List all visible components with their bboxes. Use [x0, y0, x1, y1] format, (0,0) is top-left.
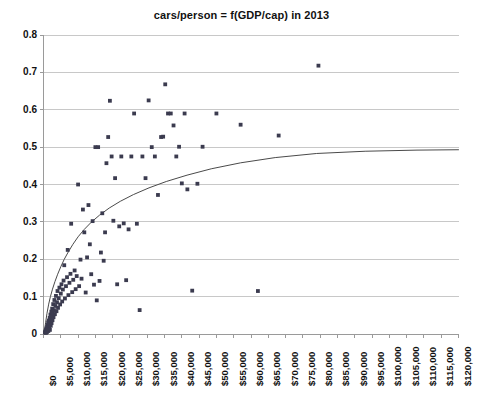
data-point	[110, 155, 114, 159]
data-point	[129, 155, 133, 159]
data-point	[174, 155, 178, 159]
data-point	[62, 263, 66, 267]
data-point	[81, 208, 85, 212]
data-point	[183, 112, 187, 116]
data-point	[77, 284, 81, 288]
data-point	[69, 222, 73, 226]
data-point	[117, 224, 121, 228]
data-point	[239, 123, 243, 127]
data-point	[147, 99, 151, 103]
data-point	[100, 211, 104, 215]
data-point	[70, 290, 74, 294]
data-point	[66, 248, 70, 252]
data-point	[201, 145, 205, 149]
data-point	[141, 155, 145, 159]
data-point	[64, 284, 68, 288]
data-point	[56, 289, 60, 293]
data-point	[111, 219, 115, 223]
data-point	[63, 297, 67, 301]
data-point	[95, 298, 99, 302]
data-point	[135, 222, 139, 226]
trendline-path	[45, 150, 459, 331]
data-point	[89, 272, 93, 276]
data-point	[156, 193, 160, 197]
scatter-chart: cars/person = f(GDP/cap) in 2013 00.10.2…	[0, 0, 483, 393]
data-point	[98, 279, 102, 283]
data-point	[103, 230, 107, 234]
data-point	[61, 288, 65, 292]
data-point	[88, 242, 92, 246]
data-point	[56, 306, 60, 310]
data-point	[74, 287, 78, 291]
trendline	[45, 150, 459, 331]
data-point	[150, 145, 154, 149]
data-point	[62, 279, 66, 283]
data-point	[163, 82, 167, 86]
data-point	[317, 64, 321, 68]
data-point	[185, 187, 189, 191]
data-point	[92, 283, 96, 287]
data-point	[71, 278, 75, 282]
data-point	[256, 289, 260, 293]
data-point	[138, 308, 142, 312]
data-point	[127, 227, 131, 231]
gridlines	[44, 35, 459, 334]
data-point	[91, 219, 95, 223]
data-point	[85, 255, 89, 259]
data-point	[215, 112, 219, 116]
data-point	[69, 272, 73, 276]
data-point	[59, 292, 63, 296]
data-point	[82, 230, 86, 234]
data-point	[172, 124, 176, 128]
data-point	[106, 135, 110, 139]
data-point	[73, 269, 77, 273]
data-point	[99, 251, 103, 255]
data-point	[60, 282, 64, 286]
data-point	[119, 155, 123, 159]
data-point	[105, 161, 109, 165]
data-point	[122, 221, 126, 225]
data-point	[124, 278, 128, 282]
data-point	[113, 176, 117, 180]
data-point	[196, 182, 200, 186]
data-point	[84, 291, 88, 295]
data-point	[79, 258, 83, 262]
data-point	[67, 293, 71, 297]
data-point	[190, 289, 194, 293]
data-point	[96, 145, 100, 149]
data-point	[76, 183, 80, 187]
x-axis-ticks	[40, 35, 459, 338]
data-point	[277, 134, 281, 138]
data-point	[65, 275, 69, 279]
data-point	[58, 286, 62, 290]
data-point	[169, 112, 173, 116]
plot-canvas	[0, 0, 483, 393]
data-point	[48, 328, 52, 332]
data-point	[153, 155, 157, 159]
data-point	[75, 274, 79, 278]
data-point	[180, 181, 184, 185]
data-point	[102, 259, 106, 263]
data-point	[144, 176, 148, 180]
data-points	[43, 64, 320, 335]
data-point	[132, 112, 136, 116]
data-point	[80, 277, 84, 281]
data-point	[115, 282, 119, 286]
data-point	[108, 99, 112, 103]
data-point	[57, 296, 61, 300]
data-point	[161, 135, 165, 139]
data-point	[68, 281, 72, 285]
data-point	[177, 145, 181, 149]
data-point	[55, 309, 59, 313]
data-point	[87, 203, 91, 207]
